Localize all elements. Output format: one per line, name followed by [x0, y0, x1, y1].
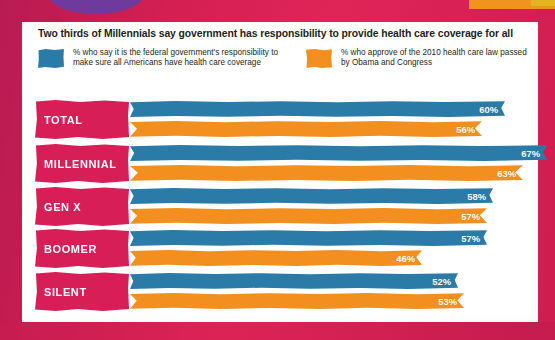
legend-item-blue: % who say it is the federal government's…	[38, 48, 288, 69]
category-label-text: SILENT	[35, 285, 87, 298]
category-label-text: BOOMER	[35, 242, 97, 255]
legend-item-orange: % who approve of the 2010 health care la…	[306, 48, 536, 69]
bar-value-label: 57%	[461, 211, 487, 222]
legend-swatch-orange-icon	[306, 49, 332, 68]
yellow-strip-decoration	[531, 0, 555, 6]
bar-rows: TOTAL60%56%MILLENNIAL67%63%GEN X58%57%BO…	[22, 100, 538, 316]
category-label-text: MILLENNIAL	[35, 157, 117, 170]
category-label-total: TOTAL	[35, 100, 129, 139]
legend-label-blue: % who say it is the federal government's…	[73, 48, 288, 69]
category-label-text: TOTAL	[35, 113, 83, 126]
category-label-millennial: MILLENNIAL	[35, 144, 129, 183]
bar-value-label: 57%	[461, 233, 487, 244]
bar-orange: 63%	[130, 165, 523, 181]
bar-blue: 57%	[130, 230, 487, 246]
chart-legend: % who say it is the federal government's…	[38, 48, 528, 92]
bar-orange: 57%	[130, 208, 487, 224]
category-label-boomer: BOOMER	[35, 229, 129, 268]
bar-orange: 46%	[130, 250, 422, 266]
bar-blue: 58%	[130, 188, 493, 204]
category-label-text: GEN X	[35, 200, 81, 213]
bottom-band-decoration	[0, 322, 555, 340]
legend-label-orange: % who approve of the 2010 health care la…	[341, 48, 536, 69]
bar-value-label: 58%	[467, 191, 493, 202]
bar-blue: 60%	[130, 101, 505, 117]
bar-value-label: 56%	[456, 124, 482, 135]
bar-row: GEN X58%57%	[22, 187, 538, 227]
bar-value-label: 53%	[438, 296, 464, 307]
bar-row: MILLENNIAL67%63%	[22, 144, 538, 184]
bar-value-label: 52%	[432, 276, 458, 287]
chart-title: Two thirds of Millennials say government…	[38, 28, 508, 39]
bar-orange: 56%	[130, 121, 482, 137]
bar-value-label: 60%	[479, 104, 505, 115]
bar-blue: 67%	[130, 145, 547, 161]
bar-value-label: 63%	[497, 168, 523, 179]
category-label-gen-x: GEN X	[35, 187, 129, 226]
legend-swatch-blue-icon	[38, 49, 64, 68]
bar-row: TOTAL60%56%	[22, 100, 538, 140]
bar-value-label: 46%	[396, 253, 422, 264]
bar-row: SILENT52%53%	[22, 272, 538, 312]
bar-blue: 52%	[130, 273, 458, 289]
bar-row: BOOMER57%46%	[22, 229, 538, 269]
category-label-silent: SILENT	[35, 272, 129, 311]
bar-value-label: 67%	[521, 148, 547, 159]
chart-card: Two thirds of Millennials say government…	[22, 22, 538, 322]
bar-orange: 53%	[130, 293, 464, 309]
